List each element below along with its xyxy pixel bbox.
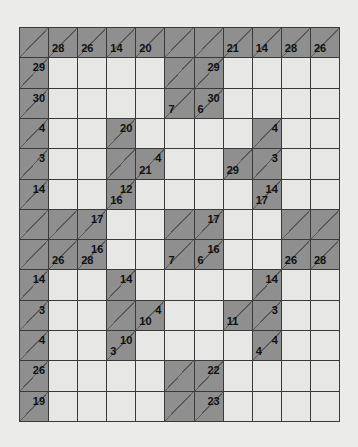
entry-cell[interactable] (224, 331, 252, 360)
entry-cell[interactable] (165, 301, 193, 330)
entry-cell[interactable] (136, 119, 164, 148)
clue-cell: 14 (20, 180, 48, 209)
entry-cell[interactable] (282, 58, 310, 87)
entry-cell[interactable] (224, 270, 252, 299)
entry-cell[interactable] (136, 58, 164, 87)
entry-cell[interactable] (107, 392, 135, 421)
entry-cell[interactable] (253, 89, 281, 118)
across-clue: 14 (266, 274, 278, 285)
clue-cell: 1216 (107, 180, 135, 209)
entry-cell[interactable] (224, 89, 252, 118)
entry-cell[interactable] (195, 119, 223, 148)
entry-cell[interactable] (224, 210, 252, 239)
entry-cell[interactable] (253, 58, 281, 87)
entry-cell[interactable] (78, 392, 106, 421)
entry-cell[interactable] (224, 180, 252, 209)
entry-cell[interactable] (136, 89, 164, 118)
clue-cell: 7 (165, 240, 193, 269)
entry-cell[interactable] (49, 58, 77, 87)
entry-cell[interactable] (136, 331, 164, 360)
entry-cell[interactable] (282, 301, 310, 330)
entry-cell[interactable] (311, 361, 339, 390)
entry-cell[interactable] (49, 119, 77, 148)
entry-cell[interactable] (136, 392, 164, 421)
clue-cell: 410 (136, 301, 164, 330)
entry-cell[interactable] (195, 270, 223, 299)
entry-cell[interactable] (49, 392, 77, 421)
clue-cell (20, 28, 48, 57)
entry-cell[interactable] (311, 89, 339, 118)
entry-cell[interactable] (282, 180, 310, 209)
entry-cell[interactable] (49, 180, 77, 209)
entry-cell[interactable] (311, 331, 339, 360)
entry-cell[interactable] (195, 149, 223, 178)
entry-cell[interactable] (311, 58, 339, 87)
entry-cell[interactable] (224, 392, 252, 421)
entry-cell[interactable] (253, 392, 281, 421)
down-clue: 7 (168, 255, 174, 266)
entry-cell[interactable] (253, 361, 281, 390)
entry-cell[interactable] (165, 180, 193, 209)
entry-cell[interactable] (49, 270, 77, 299)
entry-cell[interactable] (311, 392, 339, 421)
entry-cell[interactable] (49, 149, 77, 178)
entry-cell[interactable] (78, 119, 106, 148)
entry-cell[interactable] (195, 331, 223, 360)
clue-cell: 3 (20, 301, 48, 330)
entry-cell[interactable] (49, 301, 77, 330)
entry-cell[interactable] (282, 392, 310, 421)
entry-cell[interactable] (136, 180, 164, 209)
entry-cell[interactable] (224, 361, 252, 390)
entry-cell[interactable] (78, 270, 106, 299)
entry-cell[interactable] (78, 331, 106, 360)
entry-cell[interactable] (165, 149, 193, 178)
entry-cell[interactable] (311, 270, 339, 299)
entry-cell[interactable] (78, 301, 106, 330)
entry-cell[interactable] (282, 270, 310, 299)
across-clue: 4 (39, 335, 45, 346)
entry-cell[interactable] (78, 58, 106, 87)
entry-cell[interactable] (195, 180, 223, 209)
clue-cell: 4 (253, 119, 281, 148)
entry-cell[interactable] (165, 331, 193, 360)
entry-cell[interactable] (282, 331, 310, 360)
entry-cell[interactable] (78, 180, 106, 209)
entry-cell[interactable] (253, 210, 281, 239)
entry-cell[interactable] (282, 89, 310, 118)
entry-cell[interactable] (195, 301, 223, 330)
entry-cell[interactable] (165, 119, 193, 148)
entry-cell[interactable] (78, 361, 106, 390)
entry-cell[interactable] (107, 240, 135, 269)
down-clue: 10 (139, 316, 151, 327)
entry-cell[interactable] (78, 89, 106, 118)
entry-cell[interactable] (282, 149, 310, 178)
entry-cell[interactable] (136, 210, 164, 239)
entry-cell[interactable] (78, 149, 106, 178)
entry-cell[interactable] (107, 210, 135, 239)
entry-cell[interactable] (107, 89, 135, 118)
entry-cell[interactable] (165, 270, 193, 299)
across-clue: 26 (33, 365, 45, 376)
clue-cell: 7 (165, 89, 193, 118)
entry-cell[interactable] (311, 119, 339, 148)
entry-cell[interactable] (311, 180, 339, 209)
across-clue: 23 (207, 396, 219, 407)
entry-cell[interactable] (136, 240, 164, 269)
entry-cell[interactable] (253, 240, 281, 269)
entry-cell[interactable] (136, 270, 164, 299)
entry-cell[interactable] (49, 361, 77, 390)
clue-cell: 3 (253, 149, 281, 178)
entry-cell[interactable] (136, 361, 164, 390)
entry-cell[interactable] (107, 361, 135, 390)
entry-cell[interactable] (224, 240, 252, 269)
entry-cell[interactable] (49, 89, 77, 118)
entry-cell[interactable] (282, 361, 310, 390)
across-clue: 10 (120, 335, 132, 346)
entry-cell[interactable] (49, 331, 77, 360)
entry-cell[interactable] (224, 119, 252, 148)
entry-cell[interactable] (311, 301, 339, 330)
entry-cell[interactable] (224, 58, 252, 87)
entry-cell[interactable] (282, 119, 310, 148)
entry-cell[interactable] (311, 149, 339, 178)
entry-cell[interactable] (107, 58, 135, 87)
